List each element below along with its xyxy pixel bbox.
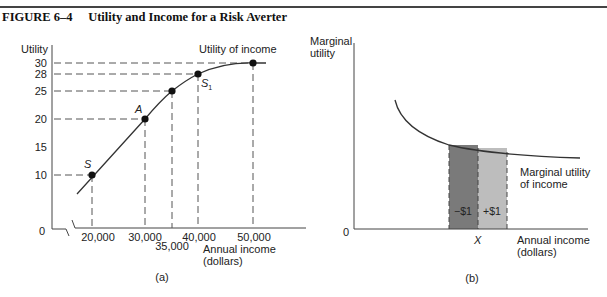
point-a — [141, 115, 148, 122]
y-axis-label-line2: utility — [310, 47, 336, 59]
figure-svg: Utility 30 28 25 20 15 10 0 20,000 30,00… — [0, 0, 607, 297]
x-tick-50000: 50,000 — [237, 231, 271, 243]
y-axis-label: Utility — [21, 43, 48, 55]
panel-b: Marginal utility 0 X Annual income (doll… — [310, 35, 591, 284]
point-35000 — [168, 87, 175, 94]
y-tick-0: 0 — [39, 225, 45, 237]
y-tick-15: 15 — [35, 141, 47, 153]
label-a: A — [134, 103, 142, 115]
cropped-text-line — [0, 289, 607, 297]
plus-dollar-label: +$1 — [483, 205, 501, 217]
panel-a-label: (a) — [155, 271, 168, 283]
x-tick-20000: 20,000 — [81, 231, 115, 243]
x-marker-label: X — [473, 234, 482, 246]
point-s — [88, 171, 95, 178]
x-axis-label-line2: (dollars) — [203, 255, 243, 267]
point-50000 — [249, 59, 256, 66]
x-tick-40000: 40,000 — [182, 231, 216, 243]
x-axis-label-line1: Annual income — [517, 234, 590, 246]
x-axis-label-line1: Annual income — [203, 243, 276, 255]
origin-label: 0 — [343, 226, 349, 238]
y-tick-10: 10 — [35, 169, 47, 181]
panel-a: Utility 30 28 25 20 15 10 0 20,000 30,00… — [21, 43, 306, 283]
minus-dollar-label: −$1 — [454, 205, 472, 217]
label-s1: S1 — [201, 77, 212, 91]
y-axis-label-line1: Marginal — [310, 35, 352, 47]
y-tick-20: 20 — [35, 113, 47, 125]
axis-break-1 — [66, 229, 69, 236]
y-tick-25: 25 — [35, 85, 47, 97]
curve-label-line2: of income — [520, 178, 568, 190]
panel-b-label: (b) — [465, 272, 478, 284]
curve-label-utility-of-income: Utility of income — [199, 43, 277, 55]
y-tick-28: 28 — [35, 68, 47, 80]
y-tick-labels: 30 28 25 20 15 10 0 — [35, 57, 47, 237]
label-s: S — [84, 158, 92, 170]
axis-break-2 — [72, 220, 75, 228]
curve-label-line1: Marginal utility — [520, 166, 591, 178]
x-axis-label-line2: (dollars) — [517, 246, 557, 258]
